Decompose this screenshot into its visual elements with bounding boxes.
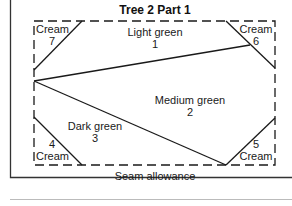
region-5-number: 5 [238,138,274,150]
region-3-name: Dark green [64,120,126,132]
region-2-number: 2 [148,106,232,118]
region-2-label: Medium green 2 [148,94,232,118]
diagram-canvas: Tree 2 Part 1 Light green 1 Medium green… [0,0,292,206]
region-7-number: 7 [34,35,70,47]
region-3-number: 3 [64,132,126,144]
region-5-name: Cream [238,150,274,162]
region-6-name: Cream [238,23,274,35]
seam-allowance-label: Seam allowance [0,170,292,182]
region-5-label: 5 Cream [238,138,274,162]
region-3-label: Dark green 3 [64,120,126,144]
region-2-name: Medium green [148,94,232,106]
region-1-number: 1 [122,38,188,50]
region-1-name: Light green [122,26,188,38]
region-6-number: 6 [238,35,274,47]
region-7-label: Cream 7 [34,23,70,47]
region-4-name: Cream [34,150,70,162]
diagram-title: Tree 2 Part 1 [0,3,292,17]
region-6-label: Cream 6 [238,23,274,47]
region-7-name: Cream [34,23,70,35]
region-4-number: 4 [34,138,70,150]
region-4-label: 4 Cream [34,138,70,162]
region-1-label: Light green 1 [122,26,188,50]
cut-line-1-2 [34,45,250,81]
